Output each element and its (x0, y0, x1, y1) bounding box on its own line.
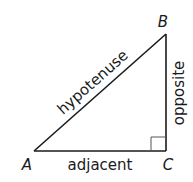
side-label-hypotenuse: hypotenuse (54, 46, 132, 118)
side-hypotenuse-line (34, 34, 166, 151)
vertex-label-b: B (158, 13, 168, 31)
side-label-opposite: opposite (170, 61, 188, 126)
side-label-adjacent: adjacent (68, 156, 133, 174)
right-triangle-diagram: B A C adjacent opposite hypotenuse (0, 0, 193, 182)
vertex-label-a: A (21, 156, 32, 174)
right-angle-marker (151, 137, 166, 151)
vertex-label-c: C (163, 156, 174, 174)
